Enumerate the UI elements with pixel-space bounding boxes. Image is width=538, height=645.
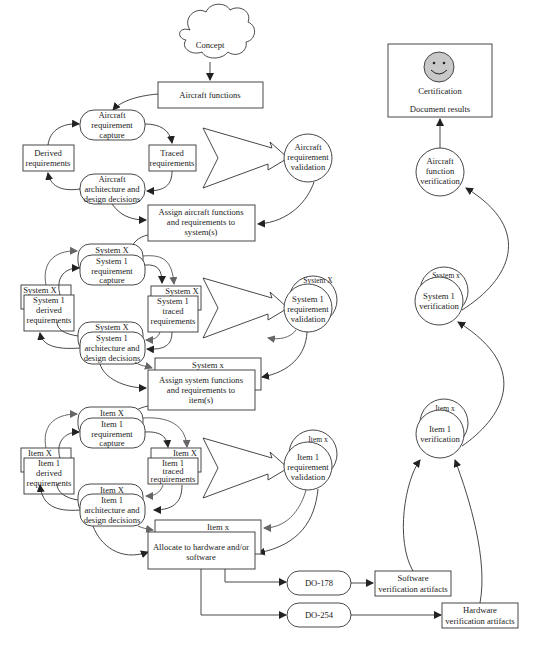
svg-text:Aircraft: Aircraft: [98, 110, 126, 120]
aircraft-requirement-validation: Aircraft requirement validation: [284, 134, 332, 182]
svg-text:Item X: Item X: [100, 485, 125, 495]
svg-text:Aircraft: Aircraft: [98, 174, 126, 184]
svg-text:item(s): item(s): [189, 395, 213, 405]
svg-text:Software: Software: [397, 573, 428, 583]
svg-text:capture: capture: [99, 130, 124, 140]
svg-text:Item 1: Item 1: [429, 424, 451, 434]
svg-text:Item X: Item X: [100, 408, 125, 418]
validation-arrow-item: [203, 438, 288, 498]
svg-text:requirement: requirement: [287, 152, 329, 162]
svg-text:Aircraft functions: Aircraft functions: [179, 90, 241, 100]
svg-text:derived: derived: [36, 468, 62, 478]
system-verification-stack: System x System 1 verification: [415, 267, 468, 325]
svg-text:derived: derived: [36, 305, 62, 315]
svg-text:Item 1: Item 1: [38, 458, 60, 468]
hardware-verification-artifacts: Hardware verification artifacts: [442, 603, 518, 628]
svg-text:design decisions: design decisions: [84, 353, 141, 363]
validation-arrow-aircraft: [203, 128, 288, 188]
svg-text:traced: traced: [163, 306, 185, 316]
svg-text:System X: System X: [165, 286, 199, 296]
svg-text:Document results: Document results: [410, 104, 471, 114]
svg-text:System 1: System 1: [96, 256, 128, 266]
svg-text:Derived: Derived: [34, 148, 62, 158]
svg-text:capture: capture: [99, 275, 124, 285]
svg-text:verification: verification: [419, 301, 459, 311]
svg-text:capture: capture: [99, 438, 124, 448]
svg-text:verification artifacts: verification artifacts: [378, 584, 448, 594]
item-architecture-decisions-stack: Item X Item 1 architecture and design de…: [78, 484, 145, 526]
system-requirement-validation-stack: System X System 1 requirement validation: [284, 276, 337, 332]
assign-aircraft-functions-box: Assign aircraft functions and requiremen…: [148, 205, 255, 241]
svg-text:Aircraft: Aircraft: [294, 142, 322, 152]
svg-text:design decisions: design decisions: [84, 194, 141, 204]
svg-text:Allocate to hardware and/or: Allocate to hardware and/or: [153, 542, 249, 552]
svg-text:DO-254: DO-254: [305, 610, 334, 620]
svg-text:System X: System X: [95, 322, 129, 332]
svg-text:requirement: requirement: [287, 462, 329, 472]
svg-text:requirements: requirements: [26, 158, 72, 168]
svg-text:verification artifacts: verification artifacts: [445, 616, 515, 626]
aircraft-requirement-capture: Aircraft requirement capture: [80, 110, 145, 140]
svg-text:requirements: requirements: [27, 315, 73, 325]
svg-text:Item 1: Item 1: [101, 419, 123, 429]
svg-text:validation: validation: [291, 162, 326, 172]
item-requirement-capture-stack: Item X Item 1 requirement capture: [78, 407, 145, 448]
system-derived-requirements-stack: System X System 1 derived requirements: [21, 285, 74, 331]
svg-text:Traced: Traced: [160, 148, 184, 158]
do-178-node: DO-178: [287, 571, 351, 595]
system-requirement-capture-stack: System X System 1 requirement capture: [78, 244, 145, 285]
svg-text:architecture and: architecture and: [84, 505, 140, 515]
svg-text:and requirements to: and requirements to: [167, 217, 235, 227]
system-architecture-decisions-stack: System X System 1 architecture and desig…: [78, 322, 145, 364]
svg-text:verification: verification: [420, 176, 460, 186]
svg-text:function: function: [426, 166, 455, 176]
allocate-hw-sw-stack: Item x Allocate to hardware and/or softw…: [148, 520, 261, 569]
svg-text:architecture and: architecture and: [84, 343, 140, 353]
svg-text:Aircraft: Aircraft: [426, 156, 454, 166]
svg-text:system(s): system(s): [185, 227, 218, 237]
system-traced-requirements-stack: System X System 1 traced requirements: [148, 286, 201, 332]
aircraft-function-verification: Aircraft function verification: [416, 148, 464, 196]
svg-text:Assign system functions: Assign system functions: [159, 375, 244, 385]
svg-text:Certification: Certification: [418, 86, 462, 96]
item-requirement-validation-stack: Item x Item 1 requirement validation: [284, 430, 337, 490]
svg-text:validation: validation: [291, 472, 326, 482]
svg-text:requirements: requirements: [27, 478, 73, 488]
item-verification-stack: Item x Item 1 verification: [416, 399, 468, 458]
svg-text:System 1: System 1: [157, 296, 189, 306]
svg-text:System 1: System 1: [33, 295, 65, 305]
svg-text:architecture and: architecture and: [84, 184, 140, 194]
do-254-node: DO-254: [287, 603, 351, 627]
svg-text:Assign aircraft functions: Assign aircraft functions: [159, 207, 245, 217]
svg-text:System 1: System 1: [96, 333, 128, 343]
svg-text:System 1: System 1: [292, 294, 324, 304]
svg-text:and requirements to: and requirements to: [167, 385, 235, 395]
svg-text:Item x: Item x: [207, 522, 230, 532]
svg-text:verification: verification: [420, 434, 460, 444]
derived-requirements-box: Derived requirements: [23, 145, 74, 171]
traced-requirements-box: Traced requirements: [149, 145, 196, 171]
item-traced-requirements-stack: Item X Item 1 traced requirements: [148, 448, 201, 484]
aircraft-architecture-decisions: Aircraft architecture and design decisio…: [80, 174, 145, 204]
smiley-face-icon: [424, 52, 454, 82]
svg-text:requirements: requirements: [151, 474, 197, 484]
requirements-process-diagram: Concept Aircraft functions Aircraft requ…: [0, 0, 538, 645]
svg-text:System 1: System 1: [423, 291, 455, 301]
svg-text:Item 1: Item 1: [297, 452, 319, 462]
svg-text:design decisions: design decisions: [84, 515, 141, 525]
svg-text:Item X: Item X: [173, 448, 198, 458]
svg-text:Item 1: Item 1: [101, 495, 123, 505]
svg-text:requirements: requirements: [150, 158, 196, 168]
svg-text:validation: validation: [291, 314, 326, 324]
item-derived-requirements-stack: Item X Item 1 derived requirements: [21, 448, 74, 494]
certification-box: Certification Document results: [388, 44, 492, 117]
svg-text:requirement: requirement: [91, 120, 133, 130]
svg-text:System x: System x: [192, 360, 224, 370]
aircraft-functions-box: Aircraft functions: [158, 82, 263, 108]
svg-text:requirements: requirements: [151, 316, 197, 326]
svg-text:System X: System X: [95, 245, 129, 255]
svg-text:requirement: requirement: [287, 304, 329, 314]
svg-text:System X: System X: [23, 285, 57, 295]
software-verification-artifacts: Software verification artifacts: [375, 571, 451, 596]
assign-system-functions-stack: System x Assign system functions and req…: [148, 358, 261, 410]
